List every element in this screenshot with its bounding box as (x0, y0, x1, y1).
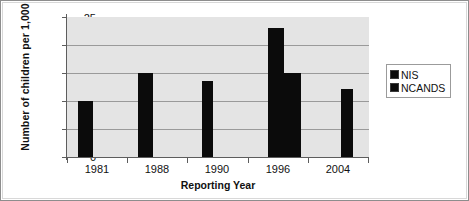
y-axis-title: Number of children per 1,000 (19, 0, 31, 157)
gridline-5 (67, 129, 369, 130)
legend-swatch-ncands (390, 83, 399, 92)
x-tick-mark-5 (368, 158, 369, 163)
bar-nis-1988 (138, 73, 153, 157)
legend-label-ncands: NCANDS (401, 82, 445, 94)
x-tick-label-1990: 1990 (187, 163, 247, 175)
x-tick-label-1988: 1988 (127, 163, 187, 175)
x-axis-title: Reporting Year (67, 179, 369, 191)
legend-label-nis: NIS (401, 69, 419, 81)
x-tick-label-2004: 2004 (308, 163, 368, 175)
plot-area (67, 17, 369, 157)
chart-legend: NIS NCANDS (386, 64, 451, 98)
gridline-20 (67, 45, 369, 46)
legend-swatch-nis (390, 70, 399, 79)
bar-nis-1996 (268, 28, 284, 157)
legend-item-nis: NIS (390, 68, 445, 81)
gridline-10 (67, 101, 369, 102)
x-tick-label-1996: 1996 (248, 163, 308, 175)
chart-figure-frame: Number of children per 1,000 25 20 15 10… (0, 0, 469, 201)
gridline-15 (67, 73, 369, 74)
bar-ncands-1990 (202, 81, 213, 157)
bar-ncands-1996 (284, 73, 301, 157)
x-tick-label-1981: 1981 (67, 163, 127, 175)
bar-ncands-2004 (341, 89, 353, 157)
y-axis-line (66, 14, 67, 160)
x-axis-line (66, 157, 369, 158)
legend-item-ncands: NCANDS (390, 81, 445, 94)
bar-nis-1981 (78, 101, 93, 157)
